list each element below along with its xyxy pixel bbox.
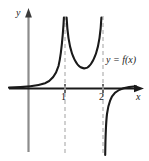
curve-branch-right: [105, 86, 136, 155]
function-graph-figure: y x 1 2 y = f(x): [0, 0, 149, 161]
y-axis-arrow-icon: [25, 8, 32, 18]
asymptotes: [65, 16, 103, 155]
y-axis-label: y: [16, 8, 20, 18]
curve-label: y = f(x): [106, 55, 136, 65]
curve-branch-left: [9, 18, 64, 88]
graph-canvas: [0, 0, 149, 161]
x-axis-label: x: [136, 92, 140, 102]
x-tick-label-2: 2: [99, 92, 104, 102]
curve-branch-middle: [67, 18, 102, 69]
y-axis: [25, 8, 32, 152]
x-tick-label-1: 1: [61, 92, 66, 102]
